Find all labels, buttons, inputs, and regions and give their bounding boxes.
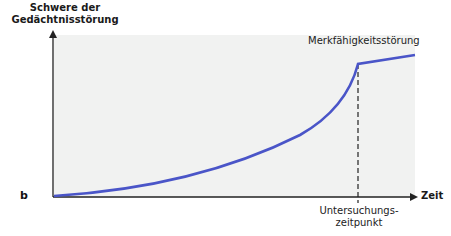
curve-annotation: Merkfähigkeitsstörung bbox=[308, 35, 420, 47]
marker-label-line1: Untersuchungs- bbox=[318, 205, 400, 217]
plot-background bbox=[54, 35, 415, 197]
x-axis-label: Zeit bbox=[421, 190, 443, 202]
y-axis-label-line1: Schwere der bbox=[10, 2, 120, 14]
panel-label: b bbox=[20, 190, 28, 202]
y-axis-label-line2: Gedächtnisstörung bbox=[10, 14, 120, 26]
y-axis-label: Schwere der Gedächtnisstörung bbox=[10, 2, 120, 26]
marker-label: Untersuchungs- zeitpunkt bbox=[318, 205, 400, 229]
marker-label-line2: zeitpunkt bbox=[318, 217, 400, 229]
